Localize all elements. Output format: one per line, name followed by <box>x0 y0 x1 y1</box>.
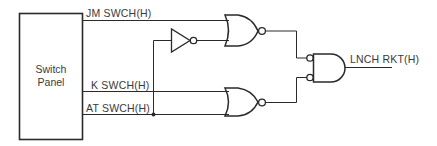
inverter-gate <box>172 29 191 52</box>
label-jm-swch: JM SWCH(H) <box>86 8 152 19</box>
label-k-swch: K SWCH(H) <box>91 80 149 91</box>
wire-nor-bottom-output <box>266 78 308 103</box>
logic-diagram: Switch Panel JM SWCH(H) K SWCH(H) AT SWC… <box>0 0 437 146</box>
and-gate <box>314 54 346 82</box>
nor-bottom-bubble <box>259 99 266 106</box>
inverter-bubble <box>190 37 196 43</box>
and-input-bubble-top <box>307 55 313 61</box>
panel-label-line1: Switch <box>19 63 83 76</box>
label-lnch-rkt: LNCH RKT(H) <box>350 54 419 65</box>
label-at-swch: AT SWCH(H) <box>86 103 150 114</box>
and-input-bubble-bottom <box>307 74 313 80</box>
wire-nor-top-output <box>266 31 308 58</box>
junction-dot <box>152 113 156 117</box>
switch-panel-label: Switch Panel <box>19 63 83 89</box>
nor-top-bubble <box>259 28 266 35</box>
panel-label-line2: Panel <box>19 76 83 89</box>
nor-gate-top <box>225 15 258 46</box>
nor-gate-bottom <box>225 88 258 116</box>
